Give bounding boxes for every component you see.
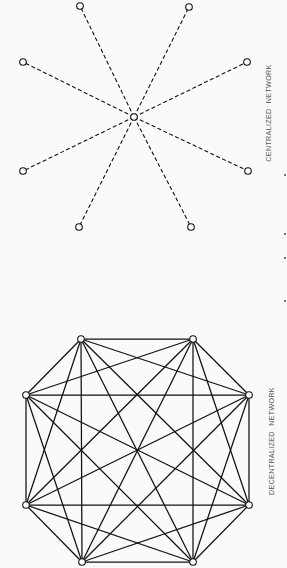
centralized-network-diagram <box>20 3 252 231</box>
spoke-edge <box>134 117 191 227</box>
cropped-text-mark <box>284 174 286 176</box>
mesh-node <box>78 336 85 343</box>
peripheral-node <box>77 3 84 10</box>
centralized-network-caption: CENTRALIZED NETWORK <box>264 64 273 161</box>
mesh-edge <box>26 339 193 395</box>
mesh-node <box>23 392 30 399</box>
mesh-edge <box>26 505 193 562</box>
cropped-text-mark <box>284 300 286 302</box>
spoke-edge <box>134 7 189 117</box>
mesh-node <box>190 336 197 343</box>
spoke-edge <box>134 117 248 171</box>
mesh-edge <box>82 505 249 562</box>
mesh-node <box>246 502 253 509</box>
network-diagrams-canvas <box>0 0 287 568</box>
mesh-edge <box>26 339 81 395</box>
peripheral-node <box>188 224 195 231</box>
decentralized-network-caption: DECENTRALIZED NETWORK <box>267 387 276 495</box>
mesh-edge <box>193 505 249 562</box>
peripheral-node <box>20 168 27 175</box>
mesh-node <box>23 502 30 509</box>
mesh-edge <box>81 339 249 505</box>
mesh-edge <box>82 395 249 562</box>
cropped-text-mark <box>284 257 286 259</box>
peripheral-node <box>245 168 252 175</box>
spoke-edge <box>23 117 134 171</box>
peripheral-node <box>20 59 27 66</box>
spoke-edge <box>79 117 134 227</box>
mesh-edge <box>26 505 82 562</box>
spoke-edge <box>80 6 134 117</box>
mesh-edge <box>26 395 193 562</box>
mesh-edge <box>26 339 193 505</box>
mesh-node <box>190 559 197 566</box>
network-comparison-figure: CENTRALIZED NETWORK DECENTRALIZED NETWOR… <box>0 0 287 568</box>
decentralized-network-diagram <box>23 336 253 566</box>
spoke-edge <box>134 62 247 117</box>
peripheral-node <box>186 4 193 11</box>
cropped-text-mark <box>284 233 286 235</box>
mesh-edge <box>193 339 249 395</box>
peripheral-node <box>244 59 251 66</box>
hub-node <box>131 114 138 121</box>
spoke-edge <box>23 62 134 117</box>
mesh-node <box>246 392 253 399</box>
peripheral-node <box>76 224 83 231</box>
mesh-node <box>79 559 86 566</box>
